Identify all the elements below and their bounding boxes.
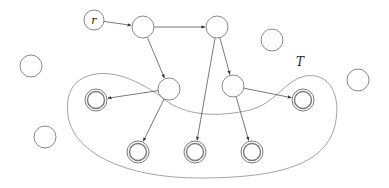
terminal-set-region [67, 73, 336, 178]
internal-node-d [222, 75, 244, 97]
terminal-node-t5 [241, 141, 263, 163]
edge-a-c [147, 37, 164, 78]
edge-d-t5 [236, 97, 249, 141]
set-label-T: T [296, 55, 305, 69]
internal-node-a [132, 16, 154, 38]
internal-node-b [206, 16, 228, 38]
terminal-node-t1 [85, 89, 107, 111]
edge-c-t3 [143, 99, 164, 141]
terminal-node-t2 [292, 89, 314, 111]
isolated-node-i3 [347, 69, 369, 91]
edge-d-t2 [244, 88, 291, 97]
root-node-r: r [84, 10, 104, 30]
nodes: r [20, 10, 369, 163]
edge-r-a [104, 21, 131, 25]
isolated-node-i4 [34, 126, 56, 148]
edge-c-t1 [108, 91, 158, 99]
terminal-node-t4 [184, 141, 206, 163]
isolated-node-i1 [20, 55, 42, 77]
terminal-node-t3 [127, 141, 149, 163]
edge-b-d [220, 38, 230, 75]
isolated-node-i2 [261, 29, 283, 51]
steiner-tree-diagram: T r [0, 0, 389, 188]
internal-node-c [158, 78, 180, 100]
root-label: r [91, 14, 97, 27]
edge-b-t4 [197, 38, 215, 140]
